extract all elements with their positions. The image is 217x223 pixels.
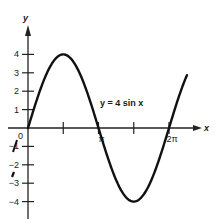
y-tick-label: 2	[14, 86, 19, 96]
origin-label: 0	[18, 131, 23, 141]
x-tick-label: 2π	[166, 134, 177, 144]
y-axis-arrow-icon	[25, 25, 31, 36]
y-axis-label: y	[22, 13, 29, 23]
x-axis-label: x	[203, 123, 210, 133]
sine-chart: 4321−1−2−3−4π2π y = 4 sin x y x 0	[0, 0, 217, 223]
equation-label: y = 4 sin x	[100, 98, 143, 108]
y-tick-label: −4	[9, 197, 19, 207]
y-tick-label: 4	[14, 49, 19, 59]
x-axis-arrow-icon	[193, 125, 202, 131]
y-tick-label: −2	[9, 160, 19, 170]
axes	[8, 25, 202, 219]
y-tick-label: 1	[14, 105, 19, 115]
scan-mark	[12, 172, 14, 177]
y-tick-label: −3	[9, 178, 19, 188]
y-tick-label: 3	[14, 68, 19, 78]
